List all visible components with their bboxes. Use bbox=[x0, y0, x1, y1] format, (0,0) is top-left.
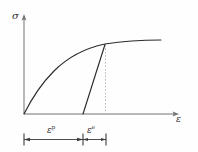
x-axis-label-epsilon: ε bbox=[176, 115, 181, 124]
dimension-arrow-plastic-right bbox=[77, 138, 83, 141]
y-axis-label-sigma: σ bbox=[12, 11, 19, 21]
stress-strain-diagram: σ ε εp εe bbox=[0, 0, 198, 152]
diagram-canvas bbox=[0, 0, 198, 152]
dimension-arrow-elastic-left bbox=[83, 138, 88, 141]
plastic-strain-superscript: p bbox=[52, 124, 56, 130]
unloading-line bbox=[83, 45, 105, 115]
dimension-arrow-elastic-right bbox=[101, 138, 106, 141]
elastic-strain-label: εe bbox=[87, 125, 95, 135]
plastic-strain-label: εp bbox=[47, 125, 55, 135]
loading-curve bbox=[24, 40, 161, 114]
elastic-strain-superscript: e bbox=[92, 124, 95, 130]
dimension-arrow-left bbox=[24, 138, 30, 141]
